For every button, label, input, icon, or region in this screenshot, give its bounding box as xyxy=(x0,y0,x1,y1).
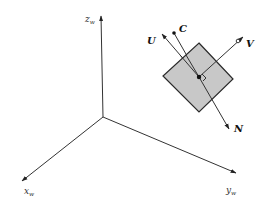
x-axis-label: xw xyxy=(24,186,35,197)
y-axis-label: yw xyxy=(225,185,237,196)
plane-center-point xyxy=(197,75,201,79)
coordinate-diagram: zw xw yw U C V N xyxy=(0,0,267,203)
v-marker xyxy=(236,39,240,43)
u-label: U xyxy=(147,35,157,46)
diagram-canvas: zw xw yw U C V N xyxy=(0,0,267,203)
v-label: V xyxy=(246,38,255,49)
n-label: N xyxy=(233,123,244,134)
c-label: C xyxy=(179,23,187,34)
x-axis xyxy=(22,117,103,181)
y-axis xyxy=(103,117,236,173)
c-point xyxy=(172,31,176,35)
z-axis-label: zw xyxy=(84,14,96,25)
z-axis xyxy=(101,16,103,117)
